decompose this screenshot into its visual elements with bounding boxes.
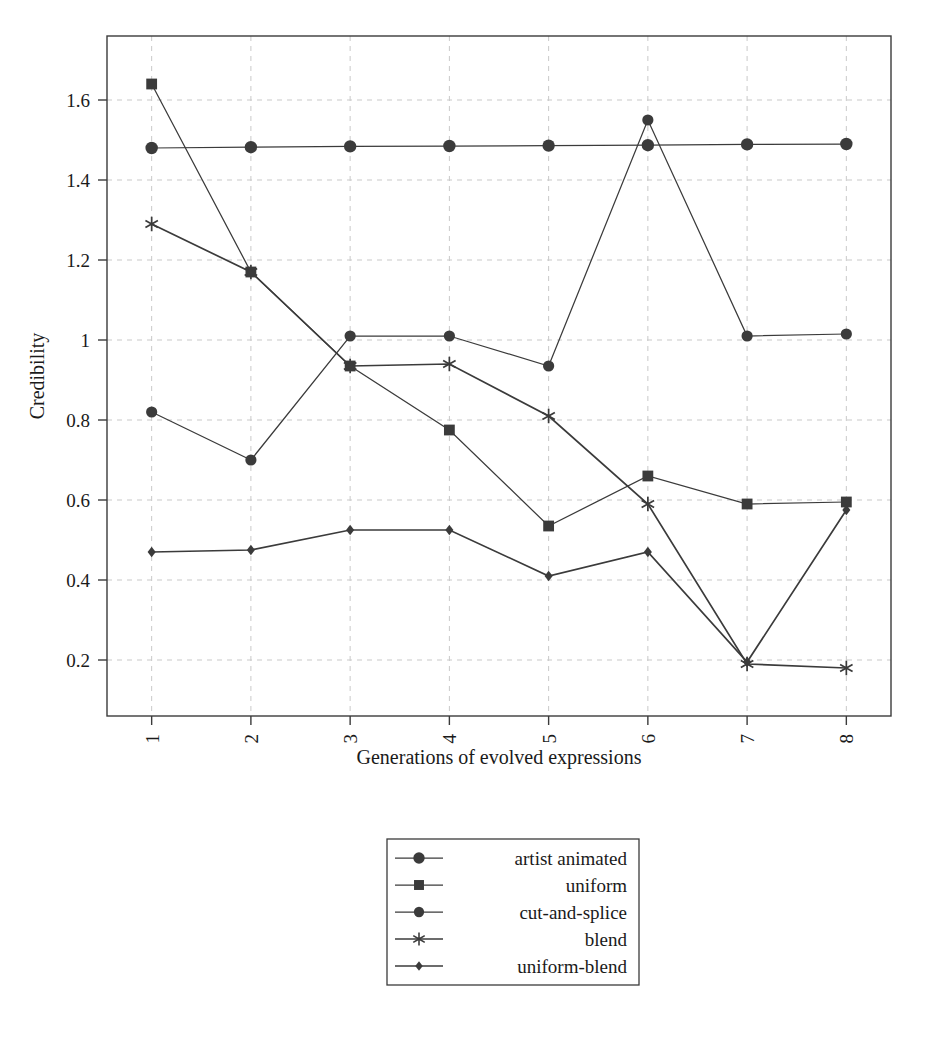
data-point-marker: [245, 454, 256, 465]
data-point-marker: [741, 138, 753, 150]
data-point-marker: [245, 141, 257, 153]
x-tick-label: 8: [836, 734, 857, 744]
data-point-marker: [444, 330, 455, 341]
data-point-marker: [444, 425, 455, 436]
data-point-marker: [443, 140, 455, 152]
data-point-marker: [413, 852, 424, 863]
data-point-marker: [542, 139, 554, 151]
data-point-marker: [543, 360, 554, 371]
data-point-marker: [742, 330, 753, 341]
x-tick-label: 7: [737, 734, 758, 744]
x-tick-label: 1: [142, 734, 163, 744]
x-tick-label: 6: [638, 734, 659, 744]
legend-label: uniform-blend: [517, 956, 627, 977]
x-tick-label: 5: [539, 734, 560, 744]
x-tick-label: 4: [439, 734, 460, 744]
data-point-marker: [146, 406, 157, 417]
data-point-marker: [145, 142, 157, 154]
data-point-marker: [345, 330, 356, 341]
data-point-marker: [742, 499, 753, 510]
legend-label: uniform: [566, 875, 627, 896]
x-tick-label: 3: [340, 734, 361, 744]
data-point-marker: [642, 471, 653, 482]
data-point-marker: [414, 880, 424, 890]
data-point-marker: [414, 907, 424, 917]
x-tick-label: 2: [241, 734, 262, 744]
data-point-marker: [840, 138, 852, 150]
y-tick-label: 1.2: [66, 250, 90, 271]
legend-label: blend: [585, 929, 628, 950]
data-point-marker: [344, 140, 356, 152]
legend-label: artist animated: [515, 848, 628, 869]
y-tick-label: 1.4: [66, 170, 90, 191]
data-point-marker: [841, 328, 852, 339]
data-point-marker: [543, 521, 554, 532]
x-axis-label: Generations of evolved expressions: [357, 746, 642, 769]
y-tick-label: 0.4: [66, 570, 90, 591]
chart-legend: artist animateduniformcut-and-spliceblen…: [387, 839, 639, 985]
y-tick-label: 1.6: [66, 90, 90, 111]
y-tick-label: 1: [81, 330, 91, 351]
y-tick-label: 0.8: [66, 410, 90, 431]
y-tick-label: 0.6: [66, 490, 90, 511]
data-point-marker: [146, 79, 157, 90]
y-tick-label: 0.2: [66, 650, 90, 671]
data-point-marker: [642, 139, 654, 151]
credibility-line-chart: 0.20.40.60.811.21.41.6 12345678 Credibil…: [0, 0, 936, 1042]
y-axis-label: Credibility: [26, 333, 49, 420]
data-point-marker: [642, 114, 653, 125]
legend-label: cut-and-splice: [519, 902, 627, 923]
